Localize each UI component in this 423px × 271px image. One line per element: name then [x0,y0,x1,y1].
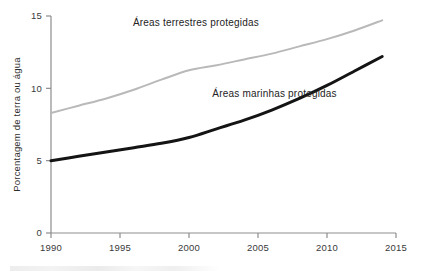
y-axis-title: Porcentagem de terra ou água [11,57,22,192]
x-tick-label: 2000 [178,242,200,253]
x-tick-label: 2005 [247,242,269,253]
y-tick-label: 0 [37,227,42,238]
x-tick-label: 1990 [40,242,62,253]
y-axis-ticks [46,16,51,233]
x-tick-label: 2010 [316,242,338,253]
x-axis-tick-labels: 199019952000200520102015 [40,242,407,253]
line-chart: 051015 199019952000200520102015 Porcenta… [0,0,423,271]
series-line-terrestrial [51,20,382,113]
series-label-terrestrial: Áreas terrestres protegidas [133,16,259,28]
y-tick-label: 5 [37,155,42,166]
series-label-marine: Áreas marinhas protegidas [212,87,337,99]
y-axis-tick-labels: 051015 [31,10,42,238]
x-tick-label: 1995 [109,242,131,253]
x-tick-label: 2015 [385,242,407,253]
series-line-marine [51,57,382,161]
chart-figure: 051015 199019952000200520102015 Porcenta… [0,0,423,271]
y-tick-label: 10 [31,83,42,94]
x-axis-ticks [51,233,396,238]
y-tick-label: 15 [31,10,42,21]
